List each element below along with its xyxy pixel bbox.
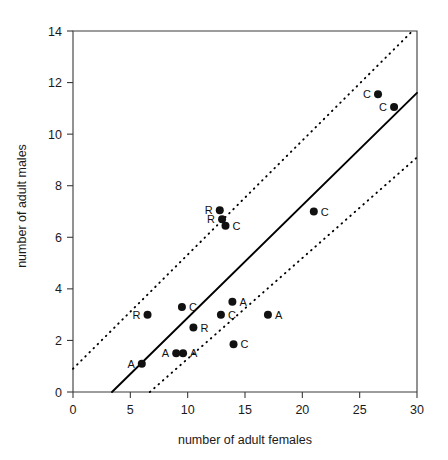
y-tick-label: 10 — [48, 128, 62, 142]
x-tick-label: 25 — [353, 403, 367, 417]
y-tick-label: 2 — [55, 334, 62, 348]
y-tick-label: 12 — [48, 76, 62, 90]
x-tick-label: 30 — [410, 403, 424, 417]
data-point — [179, 349, 187, 357]
data-point — [228, 298, 236, 306]
x-axis-label: number of adult females — [178, 433, 312, 447]
data-point-label: C — [379, 101, 387, 113]
data-point-label: C — [321, 206, 329, 218]
y-tick-label: 0 — [55, 386, 62, 400]
regression-line — [112, 93, 417, 392]
data-point-label: A — [127, 358, 135, 370]
data-point — [310, 208, 318, 216]
data-point — [374, 90, 382, 98]
data-point — [189, 324, 197, 332]
x-axis-ticks: 051015202530 — [70, 392, 424, 417]
data-point — [144, 311, 152, 319]
data-point — [264, 311, 272, 319]
data-point — [138, 360, 146, 368]
x-tick-label: 5 — [127, 403, 134, 417]
data-point — [230, 340, 238, 348]
data-point — [178, 303, 186, 311]
data-points: ARAACRRRCCACACCC — [127, 88, 398, 369]
x-tick-label: 10 — [181, 403, 195, 417]
y-tick-label: 8 — [55, 179, 62, 193]
regression-fit-line — [112, 93, 417, 392]
data-point-label: A — [162, 347, 170, 359]
y-tick-label: 4 — [55, 282, 62, 296]
data-point-label: C — [189, 301, 197, 313]
data-point — [216, 206, 224, 214]
y-axis-label: number of adult males — [15, 144, 29, 268]
data-point-label: R — [133, 309, 141, 321]
scatter-plot-figure: 051015202530 02468101214 ARAACRRRCCACACC… — [0, 0, 448, 460]
data-point — [222, 222, 230, 230]
plot-canvas: 051015202530 02468101214 ARAACRRRCCACACC… — [0, 0, 448, 460]
y-tick-label: 6 — [55, 231, 62, 245]
x-tick-label: 20 — [295, 403, 309, 417]
data-point-label: C — [228, 309, 236, 321]
data-point-label: A — [275, 309, 283, 321]
x-tick-label: 15 — [238, 403, 252, 417]
x-tick-label: 0 — [70, 403, 77, 417]
data-point — [390, 103, 398, 111]
data-point-label: C — [241, 338, 249, 350]
data-point-label: A — [239, 296, 247, 308]
data-point-label: C — [363, 88, 371, 100]
confidence-band-line — [73, 31, 412, 369]
data-point-label: R — [207, 213, 215, 225]
data-point-label: A — [190, 347, 198, 359]
data-point — [172, 349, 180, 357]
y-tick-label: 14 — [48, 25, 62, 39]
data-point — [217, 311, 225, 319]
data-point-label: C — [233, 220, 241, 232]
y-axis-ticks: 02468101214 — [48, 25, 73, 400]
data-point-label: R — [200, 322, 208, 334]
